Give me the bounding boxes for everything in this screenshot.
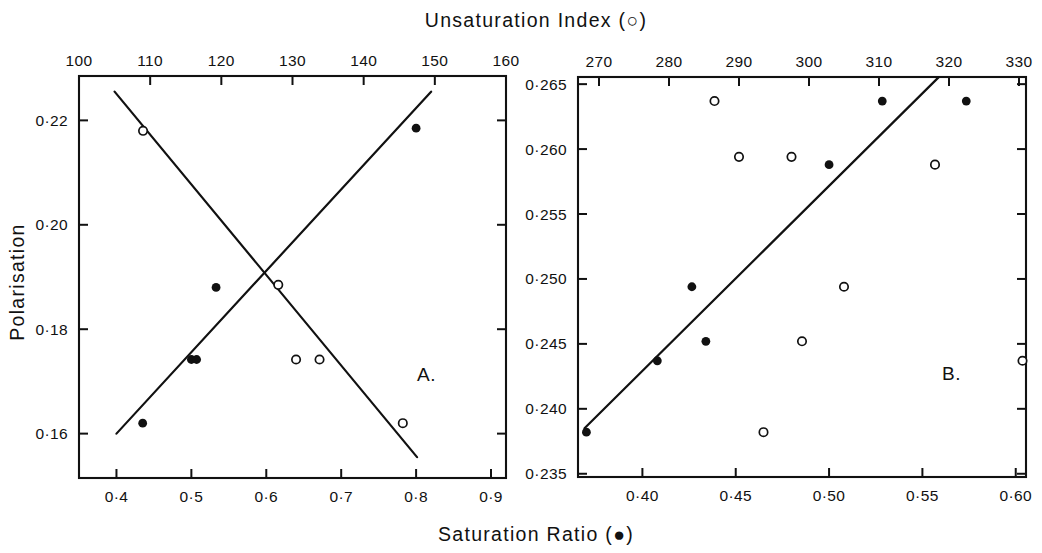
data-point-open [399,419,407,427]
panel-b: 270280290300310320330 0·400·450·500·550·… [525,53,1032,504]
data-point-filled [653,356,662,365]
tick-label: 120 [208,52,235,69]
left-axis-title: Polarisation [6,223,28,341]
top-axis-title: Unsaturation Index (○) [425,9,647,31]
data-point-filled [962,97,971,106]
trendline [585,78,939,429]
tick-label: 0·18 [35,321,68,338]
tick-label: 0·9 [479,488,503,505]
tick-label: 280 [655,53,682,70]
tick-label: 130 [279,52,306,69]
panel-b-frame [578,77,1026,477]
data-point-filled [878,97,887,106]
tick-label: 0·260 [525,141,567,158]
trendline [115,92,417,457]
panel-a-letter: A. [417,364,436,385]
panel-a-trendlines [115,92,432,457]
bottom-axis-title: Saturation Ratio (●) [438,523,634,545]
tick-label: 0·40 [626,487,659,504]
data-point-filled [687,282,696,291]
tick-label: 0·20 [35,216,68,233]
tick-label: 0·7 [329,488,353,505]
data-point-open [931,160,939,168]
panel-b-letter: B. [942,363,961,384]
data-point-open [1018,357,1026,365]
tick-label: 0·255 [525,206,567,223]
tick-label: 110 [137,52,163,69]
panel-b-data-points [582,97,1027,437]
tick-label: 300 [795,53,822,70]
tick-label: 330 [1005,53,1032,70]
tick-label: 0·265 [525,76,567,93]
tick-label: 160 [492,52,519,69]
panel-b-top-ticks: 270280290300310320330 [585,53,1032,86]
data-point-open [759,428,767,436]
tick-label: 0·45 [719,487,752,504]
panel-a-top-ticks: 100110120130140150160 [65,52,519,85]
tick-label: 0·245 [525,335,567,352]
tick-label: 310 [865,53,892,70]
data-point-filled [192,355,201,364]
panel-a-frame [79,76,506,478]
data-point-open [840,283,848,291]
tick-label: 320 [935,53,962,70]
data-point-filled [582,428,591,437]
data-point-open [798,337,806,345]
figure-canvas: Unsaturation Index (○) Saturation Ratio … [0,0,1042,553]
panel-a-left-ticks: 0·220·200·180·16 [35,112,88,442]
tick-label: 0·240 [525,400,567,417]
trendline [116,92,431,434]
panel-a-data-points [138,124,420,428]
tick-label: 270 [585,53,612,70]
tick-label: 0·55 [906,487,939,504]
tick-label: 0·235 [525,465,567,482]
data-point-filled [212,283,221,292]
tick-label: 0·250 [525,270,567,287]
data-point-open [735,153,743,161]
tick-label: 0·50 [813,487,846,504]
tick-label: 150 [421,52,448,69]
tick-label: 0·4 [105,488,129,505]
panel-a: 100110120130140150160 0·40·50·60·70·80·9… [35,52,519,505]
tick-label: 290 [725,53,752,70]
tick-label: 0·16 [35,425,68,442]
data-point-open [139,127,147,135]
data-point-open [710,97,718,105]
polarisation-scatter-figure: Unsaturation Index (○) Saturation Ratio … [0,0,1042,553]
panel-b-right-ticks [1017,84,1026,474]
data-point-open [292,355,300,363]
data-point-filled [138,419,147,428]
data-point-open [274,281,282,289]
panel-b-bottom-ticks: 0·400·450·500·550·60 [626,468,1032,504]
panel-a-bottom-ticks: 0·40·50·60·70·80·9 [105,469,503,505]
tick-label: 0·22 [35,112,68,129]
panel-a-right-ticks [497,120,506,433]
data-point-filled [825,160,834,169]
data-point-open [787,153,795,161]
data-point-open [315,355,323,363]
tick-label: 100 [65,52,92,69]
tick-label: 0·60 [999,487,1032,504]
tick-label: 0·6 [254,488,278,505]
data-point-filled [412,124,421,133]
data-point-filled [701,337,710,346]
panel-b-trendlines [585,78,939,429]
tick-label: 0·8 [404,488,428,505]
tick-label: 140 [350,52,377,69]
tick-label: 0·5 [180,488,204,505]
